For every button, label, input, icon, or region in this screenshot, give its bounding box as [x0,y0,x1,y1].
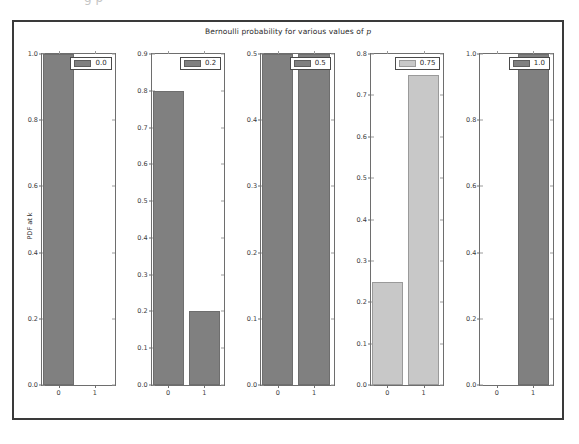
legend-label: 0.5 [315,60,326,67]
x-tick-label: 0 [495,389,499,397]
y-tick-mark-right [440,302,443,303]
y-tick-mark-right [331,385,334,386]
y-tick-mark-right [112,252,115,253]
x-tick-mark-top [278,51,279,54]
x-tick-mark [533,385,534,388]
x-tick-mark-top [59,51,60,54]
subplot-1: 0.00.10.20.30.40.50.60.70.80.9010.2 [124,44,234,408]
x-tick-label: 0 [166,389,170,397]
y-tick-mark-right [440,136,443,137]
subplot-row: PDF at k0.00.20.40.60.81.0010.00.00.10.2… [14,44,562,408]
subplot-3: 0.00.10.20.30.40.50.60.70.8010.75 [343,44,453,408]
bar [262,54,293,385]
plot-area-2: 0.00.10.20.30.40.5010.5 [260,53,335,386]
x-tick-mark-top [314,51,315,54]
y-tick-mark-right [550,186,553,187]
y-tick-mark-inner [371,219,374,220]
x-tick-label: 1 [93,389,97,397]
x-tick-label: 0 [385,389,389,397]
x-tick-mark [168,385,169,388]
y-tick-mark-right [112,318,115,319]
subplot-2: 0.00.10.20.30.40.5010.5 [233,44,343,408]
x-tick-mark-top [533,51,534,54]
matplotlib-figure: Bernoulli probability for various values… [12,20,564,420]
subplot-4: 0.00.20.40.60.81.0011.0 [452,44,562,408]
y-tick-mark-inner [480,385,483,386]
y-tick-mark-right [331,186,334,187]
y-tick-mark-right [550,252,553,253]
y-tick-mark-right [221,54,224,55]
y-tick-mark-right [221,237,224,238]
y-tick-mark-right [221,311,224,312]
legend-swatch-icon [74,60,91,67]
legend-swatch-icon [513,60,530,67]
x-tick-mark-top [168,51,169,54]
x-tick-mark [387,385,388,388]
y-tick-mark-right [331,120,334,121]
x-tick-mark [59,385,60,388]
y-tick-mark-inner [371,54,374,55]
legend-swatch-icon [399,60,416,67]
legend-3[interactable]: 0.75 [395,57,441,70]
y-tick-mark-right [112,186,115,187]
y-tick-mark-right [221,90,224,91]
y-tick-mark-right [112,120,115,121]
y-tick-mark-right [440,385,443,386]
plot-area-1: 0.00.10.20.30.40.50.60.70.80.9010.2 [151,53,226,386]
bar [372,282,403,385]
y-tick-mark-right [440,95,443,96]
figure-title: Bernoulli probability for various values… [14,27,562,36]
y-tick-mark-right [331,318,334,319]
y-tick-mark-right [440,343,443,344]
y-tick-mark-right [440,260,443,261]
y-tick-mark-right [550,54,553,55]
x-tick-label: 1 [312,389,316,397]
x-tick-mark-top [204,51,205,54]
y-tick-mark-right [550,318,553,319]
legend-swatch-icon [294,60,311,67]
y-tick-mark-inner [480,54,483,55]
y-tick-mark-right [550,120,553,121]
legend-1[interactable]: 0.2 [180,57,221,70]
legend-2[interactable]: 0.5 [290,57,331,70]
subplot-0: PDF at k0.00.20.40.60.81.0010.0 [14,44,124,408]
bar [189,311,220,385]
bar [518,54,549,385]
y-tick-mark-inner [480,186,483,187]
bar [298,54,329,385]
plot-area-3: 0.00.10.20.30.40.50.60.70.8010.75 [370,53,445,386]
x-tick-mark-top [424,51,425,54]
y-tick-mark-inner [371,95,374,96]
y-tick-mark-right [221,348,224,349]
y-tick-mark-right [221,385,224,386]
legend-0[interactable]: 0.0 [70,57,111,70]
x-tick-label: 0 [56,389,60,397]
legend-4[interactable]: 1.0 [509,57,550,70]
y-tick-mark-right [440,219,443,220]
y-tick-mark-inner [371,260,374,261]
x-tick-label: 1 [531,389,535,397]
y-tick-mark-right [331,54,334,55]
x-tick-label: 0 [276,389,280,397]
clipped-top-text: g p [0,0,579,12]
y-tick-mark-inner [371,136,374,137]
x-tick-label: 1 [202,389,206,397]
x-tick-label: 1 [422,389,426,397]
legend-label: 0.0 [95,60,106,67]
y-axis-label: PDF at k [26,212,34,239]
y-tick-mark-right [550,385,553,386]
y-tick-mark-right [221,164,224,165]
clipped-top-text-label: g p [84,0,103,5]
y-tick-mark-right [440,54,443,55]
x-tick-mark [204,385,205,388]
x-tick-mark [314,385,315,388]
x-tick-mark [95,385,96,388]
y-tick-mark-right [221,274,224,275]
bar [408,75,439,385]
legend-label: 0.2 [205,60,216,67]
y-tick-mark-inner [371,178,374,179]
y-tick-mark-right [112,54,115,55]
figure-title-text: Bernoulli probability for various values… [205,27,366,36]
x-tick-mark [497,385,498,388]
x-tick-mark [278,385,279,388]
